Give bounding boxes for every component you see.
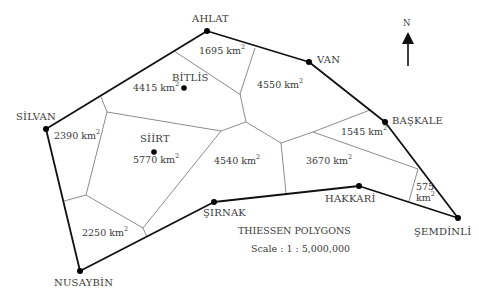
map-title: THIESSEN POLYGONS — [238, 225, 351, 236]
station-label-semdinli: ŞEMDİNLİ — [414, 226, 471, 237]
area-label-van: 4550 km2 — [257, 79, 303, 90]
station-label-nusaybin: NUSAYBİN — [54, 277, 113, 288]
area-label-sirnak: 4540 km2 — [214, 155, 260, 166]
area-label-siirt: 5770 km2 — [133, 154, 179, 165]
north-arrow-icon — [402, 32, 414, 66]
area-label-semdinli: 575km2 — [416, 181, 435, 203]
north-label: N — [403, 18, 411, 28]
station-label-silvan: SİLVAN — [16, 111, 56, 122]
station-label-sirnak: ŞIRNAK — [203, 207, 246, 218]
station-label-baskale: BAŞKALE — [392, 115, 443, 126]
area-label-baskale: 1545 km2 — [341, 126, 387, 137]
area-label-nusaybin: 2250 km2 — [82, 227, 128, 238]
station-label-ahlat: AHLAT — [192, 13, 229, 24]
area-label-ahlat: 1695 km2 — [199, 45, 245, 56]
station-label-siirt: SİİRT — [140, 133, 170, 144]
map-scale: Scale : 1 : 5,000,000 — [251, 243, 350, 254]
area-label-bitlis: 4415 km2 — [133, 82, 179, 93]
area-label-silvan: 2390 km2 — [54, 130, 100, 141]
station-label-hakkari: HAKKARİ — [325, 193, 376, 204]
area-label-hakkari: 3670 km2 — [306, 155, 352, 166]
station-label-van: VAN — [317, 54, 340, 65]
